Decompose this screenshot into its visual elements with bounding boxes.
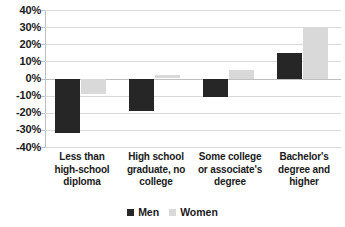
category-label-line: High school	[119, 151, 193, 164]
bar-group	[267, 10, 341, 147]
plot-area	[45, 10, 341, 147]
legend-label: Women	[180, 207, 218, 218]
category-label-line: Bachelor's	[267, 151, 341, 164]
category-label-line: diploma	[45, 176, 119, 189]
legend-label: Men	[138, 207, 159, 218]
category-label-line: college	[119, 176, 193, 189]
category-label-line: or associate's	[193, 164, 267, 177]
bar-women[interactable]	[81, 79, 106, 94]
gridline	[45, 147, 341, 148]
bar-group	[119, 10, 193, 147]
category-label-line: degree	[193, 176, 267, 189]
bar-group	[45, 10, 119, 147]
x-axis-category-label: Some collegeor associate'sdegree	[193, 151, 267, 189]
y-axis-tick-label: 0%	[1, 73, 41, 84]
y-axis-tick-label: -40%	[1, 142, 41, 153]
category-label-line: Some college	[193, 151, 267, 164]
x-axis-category-label: Bachelor'sdegree andhigher	[267, 151, 341, 189]
y-axis-tick-label: -10%	[1, 90, 41, 101]
y-axis-tick-label: 30%	[1, 22, 41, 33]
bar-women[interactable]	[155, 75, 180, 78]
category-label-line: Less than	[45, 151, 119, 164]
bar-men[interactable]	[129, 79, 154, 112]
x-axis-category-label: Less thanhigh-schooldiploma	[45, 151, 119, 189]
bar-women[interactable]	[229, 70, 254, 79]
bar-men[interactable]	[203, 79, 228, 98]
bar-women[interactable]	[303, 27, 328, 78]
y-axis-tick-label: 40%	[1, 5, 41, 16]
category-label-line: graduate, no	[119, 164, 193, 177]
x-axis-category-label: High schoolgraduate, nocollege	[119, 151, 193, 189]
legend-item-men[interactable]: Men	[127, 207, 159, 218]
y-axis-tick-label: -30%	[1, 124, 41, 135]
bar-chart: 40%30%20%10%0%-10%-20%-30%-40% Less than…	[0, 0, 345, 227]
bar-men[interactable]	[277, 53, 302, 79]
bar-group	[193, 10, 267, 147]
category-label-line: degree and	[267, 164, 341, 177]
x-axis-category-labels: Less thanhigh-schooldiplomaHigh schoolgr…	[45, 151, 341, 199]
y-axis-labels: 40%30%20%10%0%-10%-20%-30%-40%	[0, 0, 41, 227]
category-label-line: higher	[267, 176, 341, 189]
chart-legend: MenWomen	[0, 207, 345, 218]
women-swatch-icon	[169, 209, 176, 216]
bar-men[interactable]	[55, 79, 80, 134]
men-swatch-icon	[127, 209, 134, 216]
legend-item-women[interactable]: Women	[169, 207, 218, 218]
y-axis-tick-label: -20%	[1, 107, 41, 118]
y-axis-tick-label: 20%	[1, 39, 41, 50]
y-axis-tick-label: 10%	[1, 56, 41, 67]
category-label-line: high-school	[45, 164, 119, 177]
